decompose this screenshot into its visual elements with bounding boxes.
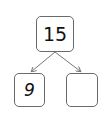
arrow-left [32, 52, 55, 71]
part-box-left: 9 [14, 73, 45, 107]
part-value-left: 9 [24, 80, 35, 100]
arrow-right [55, 52, 80, 71]
part-box-right[interactable] [66, 73, 98, 107]
whole-box: 15 [36, 16, 74, 52]
whole-value: 15 [43, 23, 67, 45]
